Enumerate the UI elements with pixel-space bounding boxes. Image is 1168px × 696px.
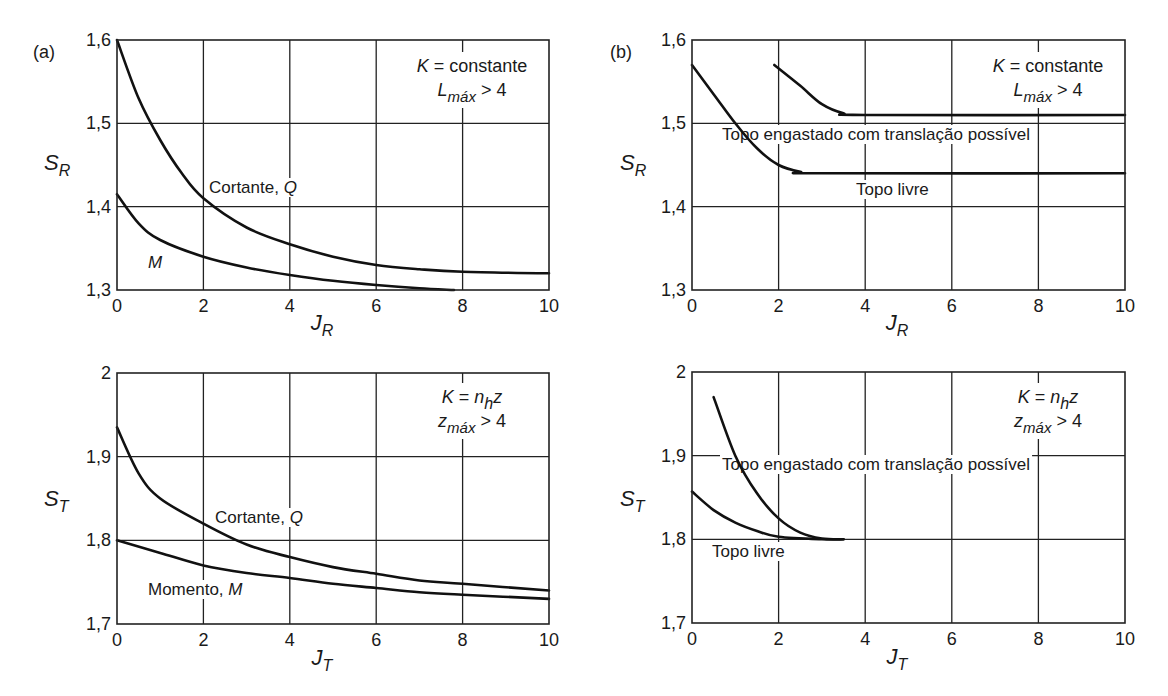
x-tick-label: 0	[687, 629, 697, 649]
y-tick-label: 1,6	[661, 30, 686, 50]
y-tick-label: 1,6	[86, 30, 111, 50]
y-tick-label: 1,9	[86, 447, 111, 467]
x-axis-label: JR	[310, 310, 334, 339]
x-tick-label: 6	[947, 629, 957, 649]
series-label: Topo engastado com translação possível	[722, 125, 1030, 144]
panel-tag-b: (b)	[610, 42, 632, 62]
y-tick-label: 1,5	[661, 113, 686, 133]
chart-b-top-sr-vs-jr: 02468101,31,41,51,6SRJRTopo engastado co…	[620, 30, 1135, 339]
x-tick-label: 6	[371, 630, 381, 650]
y-tick-label: 1,8	[661, 529, 686, 549]
series-label: Topo livre	[856, 180, 929, 199]
x-tick-label: 8	[458, 630, 468, 650]
x-tick-label: 0	[112, 296, 122, 316]
annotation-line-1: K = constante	[993, 56, 1104, 76]
x-tick-label: 4	[860, 629, 870, 649]
series-curve	[117, 427, 549, 590]
series-label: Topo livre	[712, 542, 785, 561]
y-tick-label: 1,9	[661, 446, 686, 466]
panel-tag-a: (a)	[33, 42, 55, 62]
y-tick-label: 2	[101, 363, 111, 383]
x-axis-label: JT	[886, 644, 909, 673]
y-axis-label: SR	[44, 150, 71, 179]
y-tick-label: 1,8	[86, 530, 111, 550]
x-tick-label: 2	[198, 630, 208, 650]
x-tick-label: 2	[198, 296, 208, 316]
figure: (a) (b) 02468101,31,41,51,6SRJRCortante,…	[0, 0, 1168, 696]
y-tick-label: 1,3	[86, 280, 111, 300]
chart-b-bottom-st-vs-jt: 02468101,71,81,92STJTTopo engastado com …	[620, 362, 1135, 673]
x-tick-label: 0	[112, 630, 122, 650]
x-tick-label: 6	[947, 296, 957, 316]
x-axis-label: JT	[311, 645, 334, 674]
chart-a-bottom-st-vs-jt: 02468101,71,81,92STJTCortante, QMomento,…	[44, 363, 559, 674]
series-label: Topo engastado com translação possível	[722, 455, 1030, 474]
x-tick-label: 8	[1033, 629, 1043, 649]
y-axis-label: SR	[620, 150, 647, 179]
x-tick-label: 8	[1033, 296, 1043, 316]
y-tick-label: 1,3	[661, 280, 686, 300]
x-tick-label: 10	[539, 630, 559, 650]
series-curve	[692, 492, 844, 540]
x-tick-label: 4	[285, 630, 295, 650]
annotation-line-1: K = constante	[417, 56, 528, 76]
series-label: Momento, M	[148, 580, 243, 599]
x-tick-label: 10	[539, 296, 559, 316]
x-tick-label: 0	[687, 296, 697, 316]
y-tick-label: 1,5	[86, 113, 111, 133]
x-tick-label: 2	[774, 629, 784, 649]
y-axis-label: ST	[44, 486, 70, 515]
x-tick-label: 8	[458, 296, 468, 316]
y-tick-label: 1,4	[661, 197, 686, 217]
x-tick-label: 10	[1115, 629, 1135, 649]
y-axis-label: ST	[620, 486, 646, 515]
x-tick-label: 6	[371, 296, 381, 316]
series-label: M	[148, 253, 163, 272]
x-tick-label: 4	[285, 296, 295, 316]
y-tick-label: 1,7	[661, 613, 686, 633]
y-tick-label: 1,7	[86, 614, 111, 634]
y-tick-label: 2	[676, 362, 686, 382]
x-tick-label: 4	[860, 296, 870, 316]
x-tick-label: 10	[1115, 296, 1135, 316]
x-axis-label: JR	[885, 310, 909, 339]
series-label: Cortante, Q	[215, 508, 303, 527]
x-tick-label: 2	[774, 296, 784, 316]
series-label: Cortante, Q	[209, 178, 297, 197]
y-tick-label: 1,4	[86, 197, 111, 217]
chart-a-top-sr-vs-jr: 02468101,31,41,51,6SRJRCortante, QMK = c…	[44, 30, 559, 339]
